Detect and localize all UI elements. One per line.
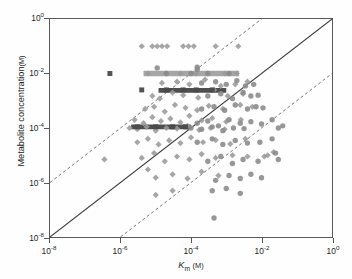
data-point-circles-46 xyxy=(205,159,210,164)
scatter-plot-figure: Metabolite concentration(M) 100 10-2 10-… xyxy=(0,0,352,279)
data-point-circles-6 xyxy=(226,71,231,76)
x-axis-unit: (M) xyxy=(193,261,204,270)
data-point-diamonds-73 xyxy=(139,155,145,161)
data-point-circles-26 xyxy=(195,121,200,126)
data-point-diamonds-68 xyxy=(188,134,194,140)
data-point-circles-3 xyxy=(164,71,169,76)
plot-canvas xyxy=(50,19,332,237)
data-point-diamonds-83 xyxy=(153,175,159,181)
data-point-circles-28 xyxy=(216,123,221,128)
data-point-squares-7 xyxy=(153,124,158,129)
data-point-diamonds-8 xyxy=(213,43,219,49)
x-axis-title-subscript: m xyxy=(184,265,190,272)
y-tick-label-4: 10-8 xyxy=(12,233,44,243)
data-point-circles-24 xyxy=(253,104,258,109)
data-point-diamonds-18 xyxy=(174,79,180,85)
data-point-diamonds-5 xyxy=(180,43,186,49)
data-point-circles-36 xyxy=(220,128,225,133)
data-point-circles-23 xyxy=(245,106,250,111)
data-point-diamonds-80 xyxy=(229,152,235,158)
data-point-circles-64 xyxy=(280,123,285,128)
data-point-diamonds-71 xyxy=(227,141,233,147)
data-point-diamonds-76 xyxy=(174,153,180,159)
data-point-circles-51 xyxy=(273,150,278,155)
data-point-circles-25 xyxy=(260,105,265,110)
data-point-diamonds-89 xyxy=(145,166,151,172)
data-point-diamonds-46 xyxy=(167,116,173,122)
data-point-circles-40 xyxy=(210,136,215,141)
data-point-circles-30 xyxy=(238,121,243,126)
data-point-circles-56 xyxy=(248,172,253,177)
data-point-circles-52 xyxy=(276,157,281,162)
data-point-diamonds-40 xyxy=(237,102,243,108)
data-point-diamonds-48 xyxy=(186,113,192,119)
data-point-squares-8 xyxy=(170,124,175,129)
data-point-circles-31 xyxy=(248,119,253,124)
data-point-circles-54 xyxy=(226,173,231,178)
data-point-diamonds-4 xyxy=(164,43,170,49)
data-point-diamonds-91 xyxy=(169,188,175,194)
data-point-diamonds-28 xyxy=(195,95,201,101)
x-tick-mark-3 xyxy=(262,238,263,243)
data-point-circles-22 xyxy=(233,102,238,107)
data-point-diamonds-78 xyxy=(198,151,204,157)
data-point-circles-42 xyxy=(233,138,238,143)
data-point-circles-58 xyxy=(210,188,215,193)
x-tick-label-0: 10-8 xyxy=(37,246,61,256)
data-point-diamonds-64 xyxy=(145,136,151,142)
x-tick-exp-3: -2 xyxy=(264,244,270,251)
data-point-diamonds-0 xyxy=(139,43,145,49)
data-point-circles-12 xyxy=(251,82,256,87)
data-point-diamonds-67 xyxy=(177,140,183,146)
plot-area xyxy=(49,18,333,238)
data-point-circles-38 xyxy=(241,126,246,131)
data-band-band-1e-4 xyxy=(131,124,191,129)
data-point-squares-5 xyxy=(210,87,215,92)
data-point-diamonds-34 xyxy=(162,108,168,114)
x-tick-mark-0 xyxy=(49,238,50,243)
data-point-squares-0 xyxy=(107,71,112,76)
data-point-circles-59 xyxy=(224,186,229,191)
data-point-circles-13 xyxy=(205,93,210,98)
x-tick-label-3: 10-2 xyxy=(250,246,274,256)
data-point-circles-29 xyxy=(226,117,231,122)
data-point-diamonds-90 xyxy=(153,192,159,198)
y-tick-label-1: 10-2 xyxy=(12,68,44,78)
data-point-circles-53 xyxy=(213,178,218,183)
data-point-diamonds-69 xyxy=(200,139,206,145)
data-point-circles-47 xyxy=(218,154,223,159)
x-tick-label-4: 100 xyxy=(321,246,345,256)
data-point-squares-9 xyxy=(183,124,188,129)
y-axis-title-text: Metabolite concentration xyxy=(16,67,26,167)
x-axis-title: Km (M) xyxy=(49,260,333,270)
data-point-diamonds-85 xyxy=(184,175,190,181)
data-point-diamonds-17 xyxy=(159,80,165,86)
data-point-circles-44 xyxy=(257,140,262,145)
data-point-circles-55 xyxy=(238,176,243,181)
data-point-squares-4 xyxy=(194,87,199,92)
data-point-circles-17 xyxy=(248,93,253,98)
data-point-circles-50 xyxy=(255,159,260,164)
reference-line-upper-bound xyxy=(50,19,262,183)
data-point-circles-0 xyxy=(155,65,160,70)
data-point-diamonds-19 xyxy=(186,81,192,87)
data-point-circles-20 xyxy=(211,104,216,109)
data-point-circles-61 xyxy=(211,215,216,220)
data-point-circles-19 xyxy=(199,106,204,111)
y-tick-label-0: 100 xyxy=(12,13,44,23)
data-point-diamonds-9 xyxy=(235,43,241,49)
data-point-diamonds-7 xyxy=(191,43,197,49)
data-point-circles-43 xyxy=(245,140,250,145)
data-point-diamonds-33 xyxy=(151,104,157,110)
data-point-diamonds-38 xyxy=(206,103,212,109)
data-point-circles-11 xyxy=(243,83,248,88)
data-bands-group xyxy=(131,71,239,130)
data-point-circles-57 xyxy=(259,175,264,180)
x-tick-label-2: 10-4 xyxy=(179,246,203,256)
data-point-diamonds-63 xyxy=(134,139,140,145)
data-point-circles-32 xyxy=(259,121,264,126)
data-point-diamonds-36 xyxy=(182,105,188,111)
data-point-circles-33 xyxy=(188,125,193,130)
data-point-circles-62 xyxy=(269,117,274,122)
data-point-circles-14 xyxy=(218,91,223,96)
